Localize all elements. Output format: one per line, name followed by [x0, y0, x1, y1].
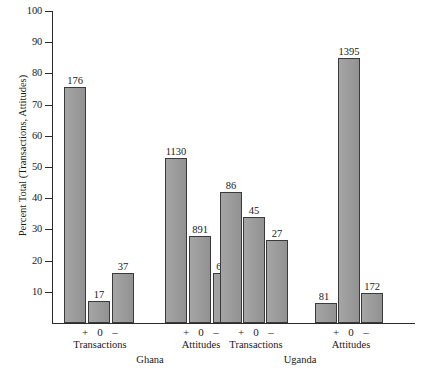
bar-value-label: 891	[181, 224, 219, 235]
bar-value-label: 17	[82, 289, 116, 300]
bar[interactable]	[88, 301, 110, 323]
x-tick-symbol: 0	[249, 326, 264, 338]
x-country-label-ghana: Ghana	[95, 354, 205, 366]
bar[interactable]	[112, 273, 134, 323]
bar[interactable]	[266, 240, 288, 323]
y-axis-title: Percent Total (Transactions, Attitudes)	[17, 41, 28, 271]
x-tick-symbols-uganda-attitudes: +0–	[308, 326, 394, 338]
x-group-label-attitudes-uganda: Attitudes	[296, 339, 406, 351]
y-tick-label: 10	[16, 287, 42, 297]
bar-value-label: 176	[58, 75, 92, 86]
x-tick-symbol: +	[78, 326, 93, 338]
y-tick-mark	[45, 42, 52, 43]
bar[interactable]	[315, 303, 337, 323]
x-tick-symbol: 0	[344, 326, 359, 338]
bar-group-uganda-attitudes: 81 1395 172	[315, 11, 391, 323]
x-country-label-uganda: Uganda	[245, 354, 355, 366]
y-tick-mark	[45, 73, 52, 74]
y-tick-label: 100	[16, 6, 42, 16]
y-tick-mark	[45, 136, 52, 137]
bar-value-label: 1130	[157, 146, 195, 157]
bar-value-label: 81	[307, 291, 341, 302]
y-tick-mark	[45, 261, 52, 262]
bar-chart-figure: 100 90 80 70 60 50 40 30 20 10 Percent T…	[0, 0, 427, 373]
plot-area: 176 17 37 1130 891 614 86 45 27	[52, 11, 415, 323]
x-group-label-transactions-uganda: Transactions	[201, 339, 311, 351]
y-tick-mark	[45, 229, 52, 230]
bar-value-label: 1395	[329, 46, 369, 57]
bar[interactable]	[361, 293, 383, 323]
x-tick-symbol: +	[179, 326, 194, 338]
bar[interactable]	[165, 158, 187, 323]
x-tick-symbol: 0	[93, 326, 108, 338]
bar-value-label: 172	[353, 281, 391, 292]
bar-value-label: 86	[214, 180, 248, 191]
x-group-label-transactions-ghana: Transactions	[45, 339, 155, 351]
bar[interactable]	[64, 87, 86, 323]
bar[interactable]	[189, 236, 211, 323]
y-tick-mark	[45, 11, 52, 12]
x-tick-symbols-ghana-transactions: +0–	[57, 326, 143, 338]
x-tick-symbol: 0	[194, 326, 209, 338]
x-tick-symbol: +	[234, 326, 249, 338]
x-tick-symbol: +	[329, 326, 344, 338]
x-tick-symbol: –	[108, 326, 123, 338]
y-tick-mark	[45, 167, 52, 168]
y-tick-mark	[45, 292, 52, 293]
bar-group-uganda-transactions: 86 45 27	[220, 11, 296, 323]
x-tick-symbols-uganda-transactions: +0–	[213, 326, 299, 338]
bar-value-label: 37	[106, 261, 140, 272]
x-tick-symbol: –	[264, 326, 279, 338]
x-axis-line	[52, 323, 415, 324]
bar-group-ghana-transactions: 176 17 37	[64, 11, 140, 323]
y-tick-mark	[45, 198, 52, 199]
x-tick-symbol: –	[359, 326, 374, 338]
bar-value-label: 45	[237, 205, 271, 216]
y-tick-mark	[45, 105, 52, 106]
bar-value-label: 27	[260, 228, 294, 239]
